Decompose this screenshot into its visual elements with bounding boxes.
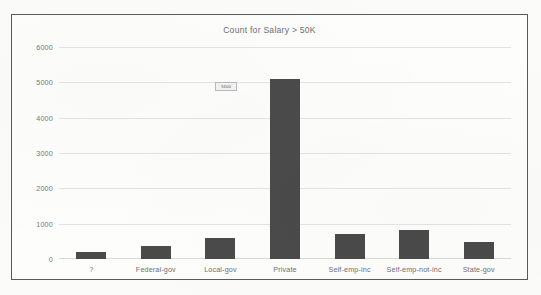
bar-slot: ?	[59, 47, 124, 259]
y-axis-tick-label: 1000	[36, 219, 53, 228]
bar-slot: State-gov	[446, 47, 511, 259]
y-axis-tick-label: 5000	[36, 78, 53, 87]
x-axis-tick-label: Private	[273, 265, 296, 274]
bar[interactable]	[76, 252, 106, 259]
bar-slot: Local-gov	[188, 47, 253, 259]
y-axis-tick-label: 0	[49, 255, 53, 264]
bar[interactable]	[335, 234, 365, 259]
bar-slot: Federal-gov	[124, 47, 189, 259]
y-axis-tick-label: 4000	[36, 113, 53, 122]
bar[interactable]	[270, 79, 300, 259]
bar[interactable]	[464, 242, 494, 259]
x-axis-tick-label: Federal-gov	[136, 265, 176, 274]
x-axis-tick-label: State-gov	[463, 265, 495, 274]
x-axis-tick-label: Self-emp-not-inc	[387, 265, 442, 274]
chart-frame: Count for Salary > 50K 01000200030004000…	[11, 14, 528, 280]
y-axis-tick-label: 2000	[36, 184, 53, 193]
y-axis-tick-label: 6000	[36, 43, 53, 52]
bar-slot: Self-emp-inc	[317, 47, 382, 259]
bar[interactable]	[399, 230, 429, 259]
bar-slot: Private	[253, 47, 318, 259]
bar-slot: Self-emp-not-inc	[382, 47, 447, 259]
value-tooltip: 5100	[215, 82, 237, 91]
bar[interactable]	[205, 238, 235, 259]
x-axis-tick-label: ?	[89, 265, 93, 274]
x-axis-tick-label: Self-emp-inc	[328, 265, 370, 274]
chart-title: Count for Salary > 50K	[12, 25, 527, 35]
x-axis-tick-label: Local-gov	[204, 265, 237, 274]
bar[interactable]	[141, 246, 171, 259]
y-axis-tick-label: 3000	[36, 149, 53, 158]
plot-area: 0100020003000400050006000 ?Federal-govLo…	[59, 47, 511, 259]
